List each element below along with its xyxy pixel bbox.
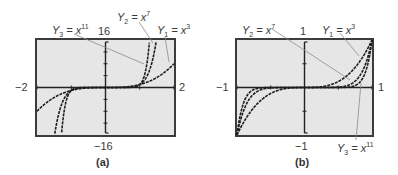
b-x-min-label: −1 <box>216 81 229 93</box>
a-y-min-label: −16 <box>94 140 113 152</box>
b-x-max-label: 1 <box>378 81 384 93</box>
a-series-label-y3: Y3 = x11 <box>52 23 89 38</box>
b-caption: (b) <box>295 156 309 168</box>
a-x-max-label: 2 <box>179 81 185 93</box>
a-y-max-label: 16 <box>98 25 110 37</box>
panel-b: 1 −1 −1 1 Y2 = x7 Y1 = x3 Y3 = x11 (b) <box>216 23 384 168</box>
b-series-label-y3: Y3 = x11 <box>337 141 374 156</box>
panel-a: 16 −16 −2 2 Y3 = x11 Y2 = x7 Y1 = x3 (a) <box>15 10 190 168</box>
a-x-min-label: −2 <box>15 81 28 93</box>
figure: 16 −16 −2 2 Y3 = x11 Y2 = x7 Y1 = x3 (a)… <box>0 0 398 175</box>
b-y-max-label: 1 <box>300 25 306 37</box>
b-series-label-y2: Y2 = x7 <box>242 23 275 38</box>
a-series-label-y1: Y1 = x3 <box>157 23 190 38</box>
b-series-label-y1: Y1 = x3 <box>322 23 355 38</box>
a-series-label-y2: Y2 = x7 <box>117 10 150 25</box>
b-y-min-label: −1 <box>295 140 308 152</box>
a-caption: (a) <box>96 156 110 168</box>
